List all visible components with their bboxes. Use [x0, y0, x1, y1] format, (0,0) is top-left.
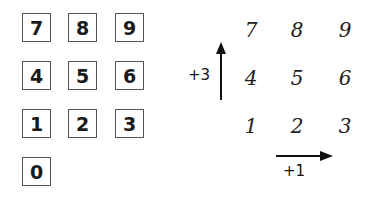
right-arrow-icon — [0, 0, 369, 197]
